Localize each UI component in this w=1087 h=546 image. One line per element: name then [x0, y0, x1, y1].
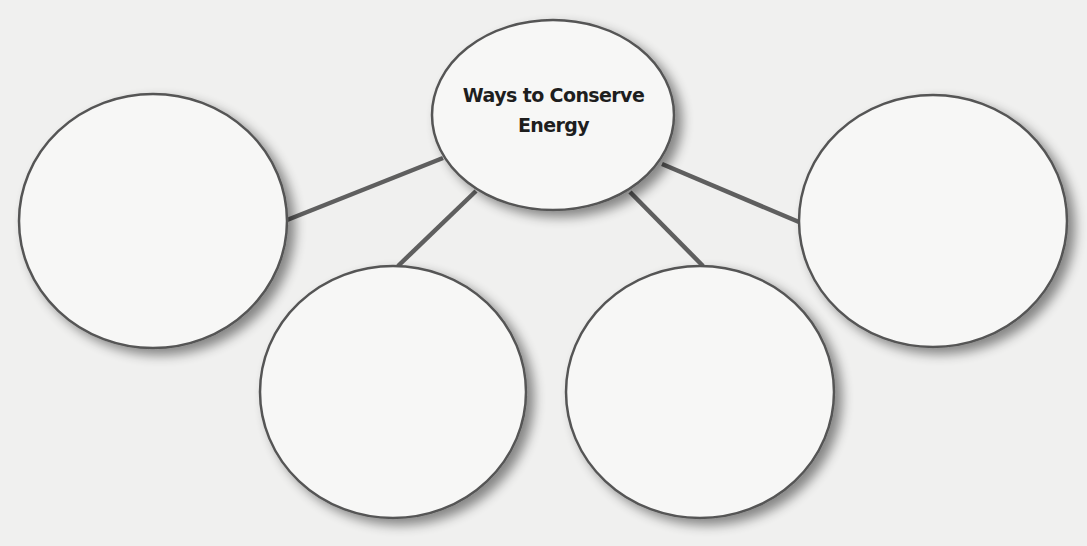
connector-line-bottom-left	[398, 191, 476, 266]
connector-line-left	[287, 158, 443, 220]
outer-node-bottom-left	[260, 266, 526, 518]
connector-line-right	[662, 164, 799, 222]
center-node-label: Ways to Conserve Energy	[433, 80, 674, 140]
concept-web-diagram: Ways to Conserve Energy	[0, 0, 1087, 546]
center-label-line2: Energy	[433, 110, 674, 140]
outer-node-bottom-right	[566, 266, 834, 518]
connector-line-bottom-right	[630, 192, 703, 266]
outer-node-left	[19, 94, 287, 348]
center-label-line1: Ways to Conserve	[433, 80, 674, 110]
outer-node-right	[799, 95, 1067, 347]
